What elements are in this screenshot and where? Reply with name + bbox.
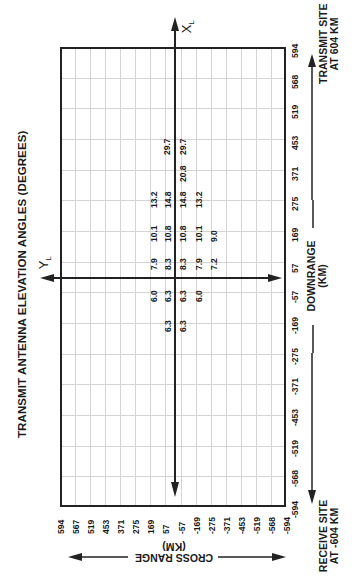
cross-range-tick: 57 <box>161 525 171 534</box>
downrange-tick: 568 <box>290 74 300 88</box>
elevation-value: 29.7 <box>162 138 172 155</box>
downrange-tick: 57 <box>290 263 300 272</box>
transmit-site-arrow-icon <box>308 54 316 67</box>
cross-range-tick: -594 <box>282 517 292 534</box>
receive-site-label: RECEIVE SITE AT -604 KM <box>318 496 340 576</box>
downrange-tick: -568 <box>290 470 300 487</box>
elevation-value: 8.3 <box>163 258 173 270</box>
cross-range-tick: 371 <box>116 520 126 534</box>
cross-range-tick: 519 <box>86 520 96 534</box>
transmit-site-label: TRANSMIT SITE AT 604 KM <box>318 4 340 84</box>
downrange-label: DOWNRANGE (KM) <box>306 230 328 322</box>
downrange-tick: -594 <box>290 501 300 518</box>
elevation-value: 7.9 <box>149 258 159 270</box>
cross-range-unit: (KM) <box>130 541 218 552</box>
cross-range-label: CROSS RANGE (KM) <box>130 541 218 563</box>
receive-site-arrow-icon <box>308 490 316 504</box>
elevation-value: 6.0 <box>194 290 204 302</box>
cross-range-tick: 567 <box>71 520 81 534</box>
downrange-tick: -57 <box>290 291 300 303</box>
cross-range-left-arrow-icon <box>68 553 82 561</box>
downrange-unit: (KM) <box>317 230 328 322</box>
cross-range-tick: -519 <box>252 517 262 534</box>
elevation-value: 13.2 <box>149 191 159 208</box>
cross-range-tick: -169 <box>192 517 202 534</box>
downrange-tick: -169 <box>290 317 300 334</box>
x-local-arrow-down-icon <box>171 482 179 497</box>
y-local-arrow-left-icon <box>40 274 54 282</box>
elevation-value: 10.8 <box>178 225 188 242</box>
y-local-arrow-right-icon <box>268 274 282 282</box>
downrange-tick: 371 <box>290 166 300 180</box>
cross-range-tick: -453 <box>237 517 247 534</box>
cross-range-title: CROSS RANGE <box>130 552 218 563</box>
cross-range-tick: 453 <box>101 520 111 534</box>
elevation-value: 14.8 <box>178 191 188 208</box>
downrange-tick: -275 <box>290 348 300 365</box>
downrange-tick: 275 <box>290 197 300 211</box>
downrange-tick: -453 <box>290 409 300 426</box>
elevation-value: 7.2 <box>209 258 219 270</box>
cross-range-tick: -568 <box>267 517 277 534</box>
cross-range-tick: 594 <box>56 520 66 534</box>
downrange-tick: -519 <box>290 440 300 457</box>
cross-range-right-arrow-icon <box>272 553 286 561</box>
downrange-tick: 169 <box>290 228 300 242</box>
x-local-label: XL <box>179 20 197 33</box>
elevation-value: 10.1 <box>194 225 204 242</box>
elevation-value: 6.0 <box>149 290 159 302</box>
cross-range-tick: -371 <box>222 517 232 534</box>
elevation-value: 7.9 <box>194 258 204 270</box>
elevation-value: 8.3 <box>178 258 188 270</box>
elevation-value: 6.3 <box>178 290 188 302</box>
cross-range-tick: -275 <box>207 517 217 534</box>
cross-range-tick: 169 <box>146 520 156 534</box>
elevation-value: 10.1 <box>149 225 159 242</box>
elevation-value: 6.3 <box>163 320 173 332</box>
elevation-value: 9.0 <box>209 230 219 242</box>
elevation-value: 10.8 <box>163 225 173 242</box>
elevation-value: 13.2 <box>194 191 204 208</box>
cross-range-tick: -57 <box>177 522 187 534</box>
y-local-label: YL <box>36 256 54 269</box>
cross-range-tick: 275 <box>131 520 141 534</box>
elevation-value: 20.8 <box>178 165 188 182</box>
elevation-value: 6.3 <box>163 290 173 302</box>
downrange-tick: 594 <box>290 44 300 58</box>
elevation-value: 6.3 <box>178 320 188 332</box>
downrange-tick: -371 <box>290 378 300 395</box>
elevation-value: 29.7 <box>178 138 188 155</box>
elevation-value: 14.8 <box>163 191 173 208</box>
downrange-tick: 519 <box>290 105 300 119</box>
downrange-tick: 453 <box>290 136 300 150</box>
